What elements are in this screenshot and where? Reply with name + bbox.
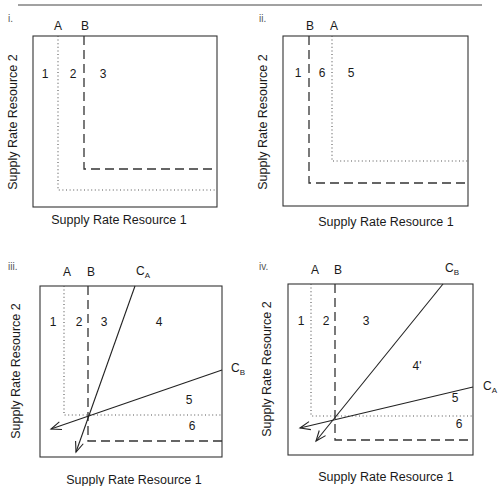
isocline-a-dotted bbox=[332, 36, 468, 161]
isocline-b-dashed bbox=[84, 36, 217, 169]
region-label: 1 bbox=[42, 67, 49, 81]
y-axis-label: Supply Rate Resource 2 bbox=[256, 54, 270, 190]
region-label: 1 bbox=[298, 314, 305, 328]
species-label-a: A bbox=[54, 19, 62, 33]
y-axis-label: Supply Rate Resource 2 bbox=[260, 301, 274, 437]
panel-label: iii. bbox=[8, 261, 17, 272]
panel-label: iv. bbox=[259, 261, 268, 272]
region-label: 3 bbox=[100, 67, 107, 81]
plot-frame bbox=[283, 36, 468, 206]
vector-label-ca: CA bbox=[483, 379, 498, 395]
x-axis-label: Supply Rate Resource 1 bbox=[318, 470, 454, 484]
species-label-b: B bbox=[334, 263, 342, 277]
panel-i: i.AB123Supply Rate Resource 1Supply Rate… bbox=[6, 13, 217, 227]
y-axis-label: Supply Rate Resource 2 bbox=[6, 54, 20, 190]
species-label-b: B bbox=[81, 19, 89, 33]
isocline-a-dotted bbox=[58, 36, 217, 190]
y-axis-label: Supply Rate Resource 2 bbox=[9, 303, 23, 439]
consumption-vector-b bbox=[51, 370, 222, 429]
region-label: 4' bbox=[413, 359, 422, 373]
region-label: 6 bbox=[456, 417, 463, 431]
panel-iv: iv.ABCBCA1234'56Supply Rate Resource 1Su… bbox=[259, 261, 498, 484]
region-label: 4 bbox=[156, 315, 163, 329]
region-label: 5 bbox=[186, 393, 193, 407]
region-label: 3 bbox=[363, 314, 370, 328]
x-axis-label: Supply Rate Resource 1 bbox=[66, 473, 202, 486]
isocline-b-dashed bbox=[309, 36, 468, 183]
panel-label: ii. bbox=[259, 13, 266, 24]
region-label: 1 bbox=[50, 315, 57, 329]
species-label-b: B bbox=[87, 265, 95, 279]
region-label: 5 bbox=[348, 66, 355, 80]
region-label: 6 bbox=[189, 419, 196, 433]
consumption-vector-a bbox=[300, 387, 473, 428]
consumption-vector-a bbox=[76, 286, 135, 452]
panel-label: i. bbox=[8, 13, 13, 24]
panel-iii: iii.ABCACB123456Supply Rate Resource 1Su… bbox=[8, 261, 245, 486]
species-label-a: A bbox=[330, 19, 338, 33]
species-label-a: A bbox=[311, 263, 319, 277]
x-axis-label: Supply Rate Resource 1 bbox=[318, 215, 454, 229]
resource-competition-figure: i.AB123Supply Rate Resource 1Supply Rate… bbox=[0, 0, 502, 486]
vector-label-cb: CB bbox=[445, 261, 459, 277]
isocline-b-dashed bbox=[88, 286, 222, 441]
region-label: 5 bbox=[452, 391, 459, 405]
region-label: 6 bbox=[319, 66, 326, 80]
region-label: 2 bbox=[76, 315, 83, 329]
isocline-b-dashed bbox=[335, 284, 473, 440]
vector-label-cb: CB bbox=[231, 361, 245, 377]
region-label: 3 bbox=[101, 315, 108, 329]
region-label: 1 bbox=[295, 66, 302, 80]
species-label-b: B bbox=[306, 19, 314, 33]
panel-ii: ii.BA165Supply Rate Resource 1Supply Rat… bbox=[256, 13, 468, 229]
plot-frame bbox=[33, 36, 217, 207]
species-label-a: A bbox=[63, 265, 71, 279]
plot-frame bbox=[288, 284, 473, 455]
x-axis-label: Supply Rate Resource 1 bbox=[51, 213, 187, 227]
region-label: 2 bbox=[323, 314, 330, 328]
vector-label-ca: CA bbox=[136, 264, 151, 280]
panels-container: i.AB123Supply Rate Resource 1Supply Rate… bbox=[6, 13, 497, 486]
region-label: 2 bbox=[70, 67, 77, 81]
